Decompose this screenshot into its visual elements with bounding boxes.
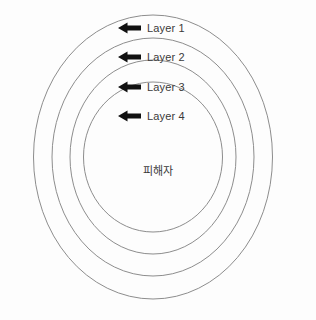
arrow-left-icon: [118, 51, 141, 63]
rings-group: [0, 0, 316, 320]
layer-label-row-2: Layer 2: [118, 51, 185, 63]
layer-label-text-2: Layer 2: [147, 52, 185, 63]
layer-label-row-1: Layer 1: [118, 22, 185, 34]
ring-outline-layer-2: [52, 38, 254, 276]
layer-label-text-4: Layer 4: [147, 111, 185, 122]
layer-label-text-1: Layer 1: [147, 23, 185, 34]
ring-outline-layer-4: [84, 82, 223, 232]
arrow-left-icon: [118, 22, 141, 34]
layer-label-row-4: Layer 4: [118, 110, 185, 122]
layer-label-text-3: Layer 3: [147, 82, 185, 93]
center-label-victim: 피해자: [0, 166, 316, 177]
arrow-left-icon: [118, 81, 141, 93]
arrow-left-icon: [118, 110, 141, 122]
layer-label-row-3: Layer 3: [118, 81, 185, 93]
concentric-ring-diagram: Layer 1 Layer 2 Layer 3 Layer 4 피해자: [0, 0, 316, 320]
